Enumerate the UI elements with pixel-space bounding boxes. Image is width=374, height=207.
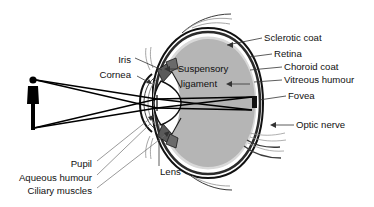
fovea-group	[252, 96, 257, 108]
label-ciliary-muscles: Ciliary muscles	[27, 185, 92, 196]
label-cornea: Cornea	[100, 69, 132, 80]
label-choroid-coat: Choroid coat	[284, 61, 339, 72]
label-lens: Lens	[160, 166, 181, 177]
label-iris: Iris	[118, 54, 131, 65]
anterior-muscle-upper	[146, 48, 150, 70]
label-retina: Retina	[274, 48, 302, 59]
leader-arrow-optic-nerve	[270, 122, 276, 128]
person-silhouette	[27, 76, 39, 130]
label-vitreous-humour: Vitreous humour	[284, 74, 355, 85]
labels-bottom-left: Pupil Aqueous humour Ciliary muscles	[19, 158, 93, 196]
leader-iris	[135, 58, 162, 70]
label-aqueous-humour: Aqueous humour	[19, 172, 93, 183]
labels-bottom-center: Lens	[160, 166, 181, 177]
fovea-shape	[252, 96, 257, 108]
eye-cross-section-svg: Iris Cornea Sclerotic coat Retina Choroi…	[0, 0, 374, 207]
anterior-muscle-lower-2	[150, 138, 153, 159]
silhouette-body	[27, 86, 39, 130]
anterior-muscle-lower	[146, 136, 150, 158]
label-sclerotic-coat: Sclerotic coat	[264, 32, 322, 43]
label-suspensory-ligament-line1: Suspensory	[178, 63, 229, 74]
labels-left: Iris Cornea	[100, 54, 132, 80]
leader-pupil	[97, 117, 152, 161]
label-optic-nerve: Optic nerve	[296, 119, 345, 130]
label-suspensory-ligament-line2: ligament	[181, 78, 218, 89]
label-fovea: Fovea	[288, 90, 315, 101]
silhouette-head	[29, 76, 36, 83]
label-pupil: Pupil	[71, 158, 92, 169]
eye-diagram-figure: Iris Cornea Sclerotic coat Retina Choroi…	[0, 0, 374, 207]
